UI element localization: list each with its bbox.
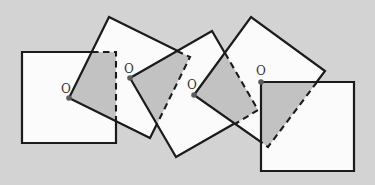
rotation-center-label-3: O bbox=[187, 78, 197, 92]
rotation-center-dot-1 bbox=[66, 95, 72, 101]
rotating-squares-figure: OOOO bbox=[0, 0, 375, 185]
rotation-center-label-1: O bbox=[61, 82, 71, 96]
rotation-center-dot-2 bbox=[127, 75, 133, 81]
rotation-center-label-2: O bbox=[124, 62, 134, 76]
rotation-center-dot-3 bbox=[191, 92, 197, 98]
rotating-squares-diagram: OOOO bbox=[0, 0, 375, 185]
rotation-center-dot-4 bbox=[258, 79, 264, 85]
rotation-center-label-4: O bbox=[256, 64, 266, 78]
